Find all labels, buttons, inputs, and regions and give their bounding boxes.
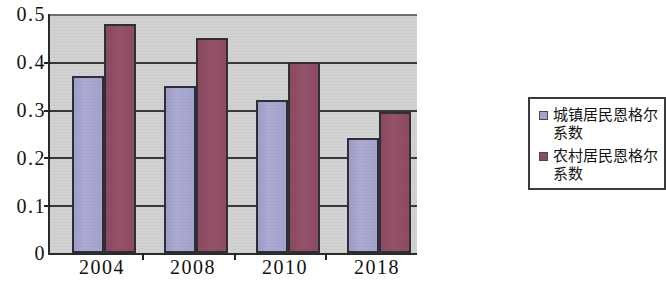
bar-rural-2004 [104, 24, 136, 253]
bar-urban-2008 [164, 86, 196, 253]
y-axis-tick-label: 0.4 [2, 52, 46, 72]
bar-rural-2010 [288, 62, 320, 253]
bar-urban-2010 [256, 100, 288, 253]
y-axis-tick-label: 0.2 [2, 148, 46, 168]
legend-swatch-rural-icon [539, 152, 548, 161]
bar-group-2008 [142, 14, 234, 253]
y-axis-tick-label: 0.1 [2, 196, 46, 216]
plot-area [48, 14, 417, 255]
bar-chart-figure: 0.5 0.4 0.3 0.2 0.1 0 [0, 0, 666, 286]
bar-group-2018 [325, 14, 417, 253]
y-axis-tick-label: 0.3 [2, 100, 46, 120]
bar-series-container [50, 14, 417, 253]
x-axis-tick-label-2018: 2018 [354, 256, 400, 279]
bar-rural-2008 [196, 38, 228, 253]
bar-rural-2018 [379, 112, 411, 253]
legend-entry-urban: 城镇居民恩格尔系数 [539, 106, 664, 142]
y-axis-tick-label: 0 [2, 243, 46, 263]
legend-label-rural: 农村居民恩格尔系数 [553, 147, 664, 183]
bar-urban-2004 [72, 76, 104, 253]
legend-label-urban: 城镇居民恩格尔系数 [553, 106, 664, 142]
x-axis-tick-label-2008: 2008 [170, 256, 216, 279]
legend-swatch-urban-icon [539, 111, 548, 120]
x-axis-tick-label-2010: 2010 [262, 256, 308, 279]
bar-group-2010 [234, 14, 326, 253]
x-axis-labels: 2004 2008 2010 2018 [48, 256, 415, 286]
y-axis-labels: 0.5 0.4 0.3 0.2 0.1 0 [0, 0, 46, 286]
bar-group-2004 [50, 14, 142, 253]
legend-entry-rural: 农村居民恩格尔系数 [539, 147, 664, 183]
bar-urban-2018 [347, 138, 379, 253]
y-axis-tick-label: 0.5 [2, 4, 46, 24]
x-axis-tick-label-2004: 2004 [79, 256, 125, 279]
chart-legend: 城镇居民恩格尔系数 农村居民恩格尔系数 [528, 97, 666, 190]
